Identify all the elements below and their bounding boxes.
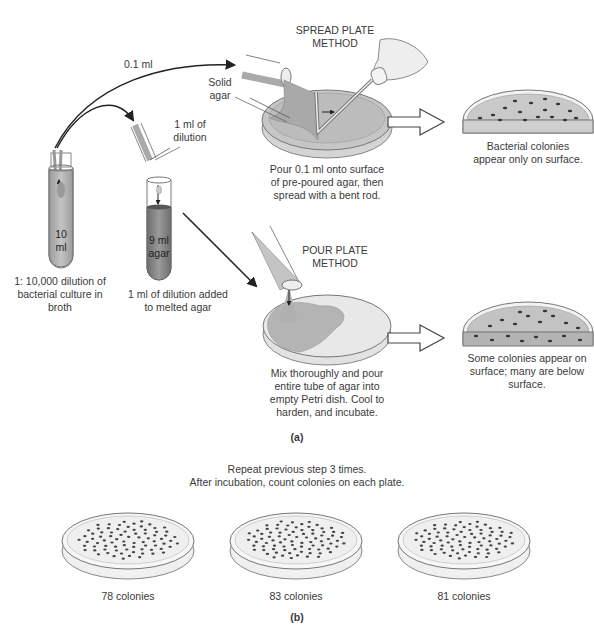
part-b-label: (b) xyxy=(287,611,307,624)
pour-plate-result: Some colonies appear on surface; many ar… xyxy=(462,352,592,391)
hollow-arrow-spread xyxy=(388,109,444,135)
spread-plate-result: Bacterial colonies appear only on surfac… xyxy=(465,140,591,166)
tube2-volume: 9 ml agar xyxy=(147,234,171,260)
pour-plate-caption: Mix thoroughly and pour entire tube of a… xyxy=(260,367,394,419)
dilution-volume-label: 1 ml of dilution xyxy=(165,118,215,144)
part-b-instructions: Repeat previous step 3 times. After incu… xyxy=(150,463,444,489)
solid-agar-label: Solid agar xyxy=(200,76,240,102)
plate-3-count: 81 colonies xyxy=(414,590,514,603)
plate-3 xyxy=(398,513,530,579)
spread-volume-label: 0.1 ml xyxy=(124,58,153,71)
plate-2 xyxy=(230,513,362,579)
plate-1-count: 78 colonies xyxy=(78,590,178,603)
spread-result-half-plate xyxy=(463,90,593,133)
spread-plate-caption: Pour 0.1 ml onto surface of pre-poured a… xyxy=(262,163,392,202)
part-a-label: (a) xyxy=(287,431,307,444)
tube1-caption: 1: 10,000 dilution of bacterial culture … xyxy=(5,275,115,314)
spread-plate-dish xyxy=(242,39,428,158)
pour-plate-title: POUR PLATE METHOD xyxy=(295,244,375,270)
arrow-to-pour-plate xyxy=(183,213,256,286)
tube1-volume: 10 ml xyxy=(49,228,73,254)
hollow-arrow-pour xyxy=(388,325,444,351)
plate-1 xyxy=(62,513,194,579)
tube2-caption: 1 ml of dilution added to melted agar xyxy=(118,288,238,314)
pour-result-half-plate xyxy=(463,302,593,346)
diagram-artwork xyxy=(0,0,594,629)
spread-plate-title: SPREAD PLATE METHOD xyxy=(290,24,380,50)
dilution-pointer xyxy=(155,147,180,160)
plate-2-count: 83 colonies xyxy=(246,590,346,603)
